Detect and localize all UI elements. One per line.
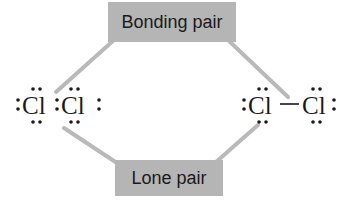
- lewis-structure-diagram: Cl Cl Cl Cl Bonding pair Lone pair: [0, 0, 341, 205]
- connector-bonding-left: [56, 40, 114, 92]
- left-atom-2: Cl: [61, 92, 85, 119]
- right-atom-2: Cl: [302, 92, 326, 119]
- left-molecule: Cl Cl: [16, 87, 101, 124]
- right-molecule: Cl Cl: [242, 87, 336, 124]
- connector-lone-right: [216, 125, 258, 162]
- connector-lone-left: [64, 128, 120, 165]
- right-atom-1: Cl: [248, 92, 272, 119]
- left-atom-1: Cl: [22, 92, 46, 119]
- lone-pair-label: Lone pair: [115, 160, 223, 196]
- bonding-pair-label: Bonding pair: [108, 2, 236, 42]
